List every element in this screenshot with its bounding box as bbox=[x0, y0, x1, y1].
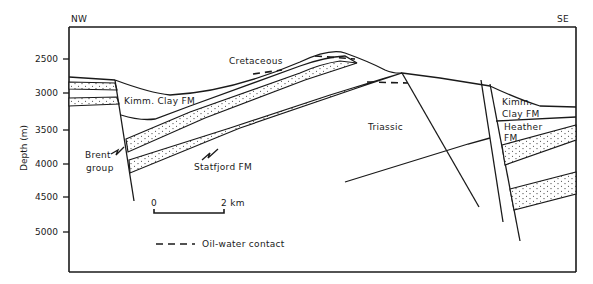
se-sand-lower bbox=[510, 172, 576, 210]
brent-sand bbox=[126, 61, 357, 152]
tick-3000: 3000 bbox=[35, 88, 58, 98]
label-brent-line1: Brent bbox=[85, 150, 111, 160]
scale-start: 0 bbox=[151, 198, 157, 208]
triassic-horizon bbox=[345, 138, 490, 182]
label-heather-1: Heather bbox=[504, 122, 542, 132]
label-triassic: Triassic bbox=[367, 122, 403, 132]
label-brent-line2: group bbox=[86, 163, 114, 173]
tick-5000: 5000 bbox=[35, 227, 58, 237]
nw-fault-block bbox=[69, 77, 119, 106]
statfjord-pointer bbox=[202, 149, 218, 160]
nw-label: NW bbox=[71, 14, 87, 24]
fault-se-2 bbox=[481, 80, 503, 222]
tick-3500: 3500 bbox=[35, 125, 58, 135]
section-frame bbox=[69, 27, 576, 272]
tick-2500: 2500 bbox=[35, 54, 58, 64]
label-kimm-clay-right-1: Kimm. bbox=[502, 97, 532, 107]
label-heather-2: FM bbox=[504, 133, 518, 143]
depth-axis: 2500 3000 3500 4000 4500 5000 Depth (m) bbox=[19, 54, 69, 237]
tick-4500: 4500 bbox=[35, 192, 58, 202]
legend-owc-label: Oil-water contact bbox=[202, 239, 285, 249]
scale-bar: 0 2 km bbox=[151, 198, 245, 213]
se-cretaceous-base bbox=[402, 73, 576, 107]
brent-pointer bbox=[111, 147, 124, 155]
label-cretaceous: Cretaceous bbox=[229, 56, 283, 66]
geological-cross-section: NW SE 2500 3000 3500 4000 4500 5000 Dept… bbox=[0, 0, 593, 284]
scale-end: 2 km bbox=[221, 198, 245, 208]
label-statfjord: Statfjord FM bbox=[194, 162, 252, 172]
fault-se-1 bbox=[402, 73, 479, 207]
tick-4000: 4000 bbox=[35, 159, 58, 169]
depth-axis-label: Depth (m) bbox=[19, 125, 29, 171]
legend: Oil-water contact bbox=[156, 239, 285, 249]
owc-brent-a bbox=[253, 70, 282, 74]
label-kimm-clay-right-2: Clay FM bbox=[502, 109, 540, 119]
se-label: SE bbox=[557, 14, 569, 24]
owc-statfjord bbox=[367, 82, 408, 83]
label-kimm-clay-left: Kimm. Clay FM bbox=[124, 96, 195, 106]
